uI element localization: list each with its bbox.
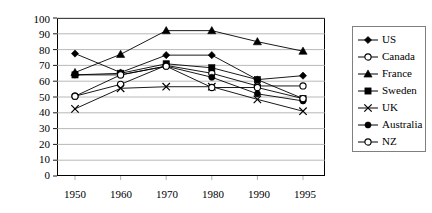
y-axis-ticks	[53, 18, 57, 176]
legend-label: Australia	[379, 119, 422, 130]
legend-item-sweden[interactable]: Sweden	[353, 82, 425, 99]
open-circle-icon	[357, 135, 379, 149]
x-axis-ticks	[75, 176, 303, 180]
filled-triangle-icon	[357, 67, 379, 81]
open-circle-icon	[357, 50, 379, 64]
cross-icon	[357, 101, 379, 115]
legend-label: UK	[379, 102, 398, 113]
legend-item-us[interactable]: US	[353, 31, 425, 48]
filled-diamond-icon	[357, 33, 379, 47]
chart-figure: 100 90 80 70 60 50 40 30 20 10 0 1950 19…	[0, 0, 432, 213]
legend-item-australia[interactable]: Australia	[353, 116, 425, 133]
gridlines	[57, 18, 325, 160]
legend-item-nz[interactable]: NZ	[353, 133, 425, 150]
series-layer	[71, 27, 307, 115]
legend-item-france[interactable]: France	[353, 65, 425, 82]
legend-label: Sweden	[379, 85, 417, 96]
legend-label: Canada	[379, 51, 415, 62]
filled-square-icon	[357, 84, 379, 98]
legend-item-uk[interactable]: UK	[353, 99, 425, 116]
legend-label: France	[379, 68, 412, 79]
filled-circle-icon	[357, 118, 379, 132]
legend-label: US	[379, 34, 396, 45]
legend-item-canada[interactable]: Canada	[353, 48, 425, 65]
series-us	[71, 50, 306, 83]
legend-label: NZ	[379, 136, 397, 147]
legend: US Canada France Sweden UK Australia NZ	[352, 26, 426, 152]
